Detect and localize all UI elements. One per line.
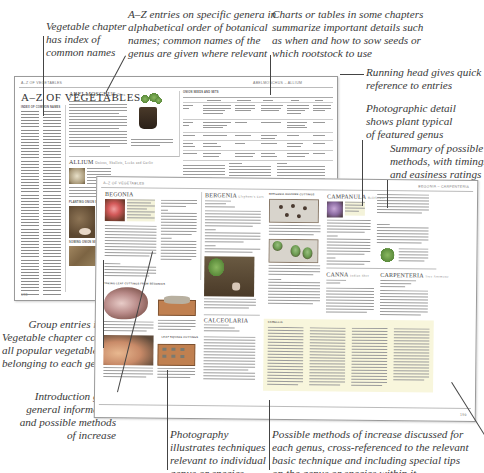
index-heading: INDEX OF COMMON NAMES	[21, 106, 60, 109]
rhizome-tray-photo-2	[268, 239, 318, 264]
leaf-cuttings-tray-photo	[158, 292, 196, 316]
callout-group-entries: Group entries in Vegetable chapter cover…	[2, 318, 102, 370]
entry-heading-bergenia: BERGENIA Elephant's Ears	[205, 192, 264, 199]
right-column-text	[377, 194, 429, 225]
box-column-1	[267, 327, 304, 389]
bergenia-photo-caption	[204, 298, 256, 313]
canna-text	[326, 287, 374, 318]
camellia-method-box: CAMELLIA	[263, 319, 434, 393]
camellia-box-heading: CAMELLIA	[268, 321, 283, 324]
rhizome-tray-photo-1	[269, 199, 319, 224]
footer-rule	[99, 404, 471, 409]
callout-charts-tables: Charts or tables in some chapters summar…	[272, 8, 423, 60]
callout-az-entries: A–Z entries on specific genera in alphab…	[128, 8, 276, 60]
index-column-2	[43, 111, 61, 297]
leaf-cuttings-caption-1	[104, 321, 154, 334]
box-column-2	[309, 327, 346, 389]
callout-running-head: Running head gives quick reference to en…	[366, 66, 481, 92]
canna-summary	[326, 279, 346, 287]
abelmoschus-caption	[131, 139, 173, 151]
chart-row	[183, 133, 333, 141]
sowing-onion-seeds-photo-1	[69, 246, 97, 266]
chart-row	[183, 103, 333, 120]
index-column-1	[21, 111, 39, 297]
page-number: 199	[460, 413, 467, 417]
leaf-cuttings-heading: TAKING LEAF CUTTINGS FROM BEGONIAS	[104, 282, 165, 286]
callout-vegetable-index: Vegetable chapter has index of common na…	[46, 20, 126, 59]
leader-vegetable-index	[43, 36, 44, 116]
begonia-summary	[127, 199, 155, 221]
carpenteria-summary	[380, 280, 416, 290]
garlic-bulb-photo	[69, 168, 85, 184]
running-head-right: BEGONIA – CARPENTERIA	[418, 184, 469, 189]
rhizome-caption-1	[269, 225, 321, 238]
campanula-flower-photo	[327, 201, 343, 217]
front-page-spread: A–Z OF VEGETABLES BEGONIA – CARPENTERIA …	[94, 176, 479, 422]
header-rule	[19, 87, 333, 88]
callout-photography: Photography illustrates techniques relev…	[170, 428, 266, 473]
abelmoschus-text	[69, 101, 127, 151]
entry-divider	[69, 156, 179, 157]
column-divider	[179, 91, 180, 157]
leaf-cuttings-caption-2	[158, 320, 196, 332]
box-column-3	[351, 328, 388, 390]
entry-heading-carpenteria: CARPENTERIA Tree Anemone	[380, 272, 449, 279]
chart-title: ONION SEEDS AND SETS	[183, 91, 219, 94]
cutting-leaf-photo	[380, 248, 394, 262]
running-head-left: A–Z OF VEGETABLES	[103, 181, 144, 185]
cutting-leaf-hands-photo	[103, 335, 153, 366]
leaf-squares-tray-photo	[157, 344, 195, 366]
seedling-pot-photo	[129, 91, 169, 137]
begonia-text-col-2	[160, 200, 197, 280]
entry-divider	[204, 314, 260, 316]
chart-row	[183, 141, 333, 151]
leader-photographic-detail	[362, 140, 363, 206]
chart-row	[183, 120, 333, 133]
entry-heading-allium: ALLIUM Onions, Shallots, Leeks and Garli…	[69, 159, 153, 165]
page-number-left: 198	[21, 293, 28, 297]
begonia-flower-photo	[105, 199, 125, 221]
leaf-squares-caption-1	[103, 367, 153, 380]
rhizome-text	[268, 279, 320, 310]
bergenia-summary	[205, 200, 235, 208]
bergenia-rhizome-cuttings-heading: BERGENIA RHIZOME CUTTINGS	[269, 193, 314, 196]
calceolaria-text	[203, 336, 256, 387]
running-head-left: A–Z OF VEGETABLES	[21, 81, 62, 85]
box-column-4	[393, 328, 430, 386]
carpenteria-text	[380, 290, 428, 321]
leader-charts-tables	[270, 55, 271, 95]
entry-heading-abelmoschus: ABELMOSCHUS Okra	[69, 91, 126, 97]
leader-group-entries	[103, 260, 104, 348]
leader-summary-methods	[387, 180, 388, 208]
bergenia-rhizome-photo	[204, 256, 254, 297]
leader-photography	[167, 370, 168, 470]
begonia-intro	[104, 225, 156, 262]
callout-photographic-detail: Photographic detail shows plant typical …	[366, 102, 456, 141]
calceolaria-summary	[204, 324, 240, 334]
running-head-right: ABELMOSCHUS – ALLIUM	[253, 81, 302, 85]
column-divider	[65, 105, 66, 292]
planting-onion-sets-photo	[69, 206, 95, 238]
onion-chart-table	[183, 97, 333, 161]
leaf-squares-caption-2	[157, 368, 195, 380]
entry-heading-begonia: BEGONIA	[105, 191, 133, 197]
entry-heading-canna: CANNA Indian Shot	[326, 271, 369, 277]
rhizome-caption-2	[268, 265, 320, 278]
callout-possible-methods: Possible methods of increase discussed f…	[272, 428, 469, 473]
column-divider	[200, 192, 202, 280]
callout-summary-methods: Summary of possible methods, with timing…	[390, 142, 484, 181]
chart-row	[183, 151, 333, 161]
leader-possible-methods	[269, 400, 270, 470]
leader-running-head	[340, 74, 364, 75]
cutting-leaf-caption	[398, 248, 428, 264]
leaf-square-cuttings-heading: LEAF SQUARE CUTTINGS	[162, 336, 199, 339]
right-column-text-2	[377, 224, 429, 249]
entry-heading-calceolaria: CALCEOLARIA	[204, 317, 249, 323]
bergenia-text	[204, 210, 261, 261]
